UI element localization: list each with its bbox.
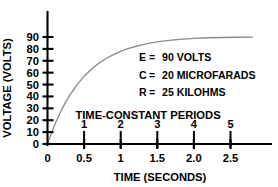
y-tick-label: 50 bbox=[27, 79, 39, 91]
annotation-value: 90 VOLTS bbox=[162, 51, 211, 63]
annotation-key: C bbox=[139, 69, 147, 81]
y-tick-label: 20 bbox=[27, 114, 39, 126]
y-tick-label: 0 bbox=[33, 138, 39, 150]
y-tick-label: 90 bbox=[27, 31, 39, 43]
x-tick-label: 0.5 bbox=[76, 152, 92, 164]
y-tick-label: 70 bbox=[27, 55, 39, 67]
x-tick-label: 2.0 bbox=[186, 152, 202, 164]
x-tick-label: 1.5 bbox=[150, 152, 166, 164]
y-tick-label: 30 bbox=[27, 102, 39, 114]
x-tick-label: 0 bbox=[44, 152, 50, 164]
y-tick-label: 40 bbox=[27, 90, 39, 102]
y-axis-tick-labels: 0102030405060708090 bbox=[27, 31, 39, 150]
annotation-equals: = bbox=[149, 69, 155, 81]
annotation-key: E bbox=[139, 51, 146, 63]
annotation-key: R bbox=[139, 86, 147, 98]
y-tick-label: 60 bbox=[27, 67, 39, 79]
x-tick-label: 2.5 bbox=[223, 152, 239, 164]
annotation-equals: = bbox=[149, 51, 155, 63]
annotation-equals: = bbox=[149, 86, 155, 98]
x-tick-label: 1 bbox=[118, 152, 124, 164]
y-axis-title: VOLTAGE (VOLTS) bbox=[1, 38, 13, 138]
time-constant-axis-title: TIME-CONSTANT PERIODS bbox=[75, 109, 221, 121]
annotation-value: 25 KILOHMS bbox=[162, 86, 226, 98]
rc-charging-curve-figure: 0102030405060708090 00.511.52.02.5 12345… bbox=[0, 0, 278, 187]
x-axis-title: TIME (SECONDS) bbox=[114, 171, 207, 183]
time-constant-label: 5 bbox=[227, 118, 233, 130]
annotation-value: 20 MICROFARADS bbox=[162, 69, 256, 81]
y-tick-label: 10 bbox=[27, 126, 39, 138]
y-tick-label: 80 bbox=[27, 43, 39, 55]
